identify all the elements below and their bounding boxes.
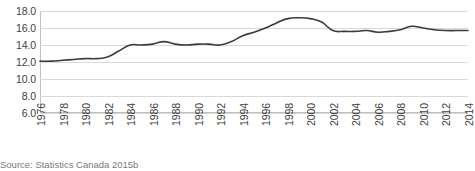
x-axis-tick-label: 1992: [216, 115, 227, 126]
x-axis-tick-label: 2004: [351, 115, 362, 126]
x-axis-tick-label: 2010: [419, 115, 430, 126]
source-caption: Source: Statistics Canada 2015b: [0, 159, 138, 170]
y-axis-tick-label: 8.0: [0, 91, 36, 102]
x-axis-tick-label: 2000: [306, 115, 317, 126]
y-axis-tick-label: 16.0: [0, 23, 36, 34]
y-axis-tick-label: 6.0: [0, 108, 36, 119]
series-line: [40, 11, 468, 113]
x-axis-tick-label: 1990: [194, 115, 205, 126]
x-axis-tick-label: 2006: [374, 115, 385, 126]
x-axis-tick-label: 2012: [441, 115, 452, 126]
x-axis-tick-label: 2008: [396, 115, 407, 126]
plot-area: [40, 11, 468, 113]
x-axis-tick-label: 1980: [81, 115, 92, 126]
x-axis-tick-label: 1976: [36, 115, 47, 126]
x-axis-tick-label: 1982: [104, 115, 115, 126]
x-axis-tick-label: 1996: [261, 115, 272, 126]
x-axis-tick-label: 1988: [171, 115, 182, 126]
x-axis-tick-label: 1986: [149, 115, 160, 126]
x-axis-tick-label: 2014: [464, 115, 475, 126]
x-axis-tick-label: 1978: [59, 115, 70, 126]
x-axis-tick-label: 2002: [329, 115, 340, 126]
y-axis-tick-label: 12.0: [0, 57, 36, 68]
x-axis-tick-label: 1998: [284, 115, 295, 126]
x-axis-tick-label: 1994: [239, 115, 250, 126]
x-axis-labels: 1976197819801982198419861988199019921994…: [40, 115, 468, 157]
y-axis-tick-label: 10.0: [0, 74, 36, 85]
y-axis-labels: 18.016.014.012.010.08.06.0: [0, 0, 36, 171]
y-axis-tick-label: 14.0: [0, 40, 36, 51]
series-path: [40, 18, 468, 61]
x-axis-tick-label: 1984: [126, 115, 137, 126]
y-axis-tick-label: 18.0: [0, 6, 36, 17]
